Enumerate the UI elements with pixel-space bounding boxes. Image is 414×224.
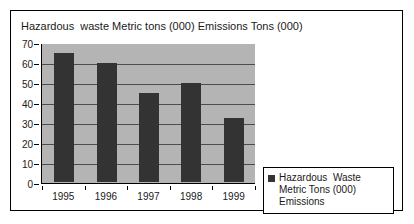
chart-title: Hazardous waste Metric tons (000) Emissi… <box>21 20 303 32</box>
y-axis-tick-label: 40 <box>22 99 33 110</box>
legend-color-swatch-icon <box>268 175 275 182</box>
y-axis-tick-mark <box>34 104 39 105</box>
bar <box>139 93 159 182</box>
legend-item-label: Hazardous Waste Metric Tons (000) Emissi… <box>279 172 389 208</box>
x-axis-tick-label: 1999 <box>214 186 254 202</box>
bar-series <box>43 44 255 182</box>
y-axis-tick-label: 60 <box>22 59 33 70</box>
plot-area <box>41 44 255 184</box>
y-axis-tick-mark <box>34 84 39 85</box>
y-axis-tick-label: 50 <box>22 79 33 90</box>
x-axis-tick-mark <box>212 186 213 190</box>
x-axis-tick-label: 1997 <box>128 186 168 202</box>
plot-area-wrapper <box>41 44 255 184</box>
y-axis-tick-mark <box>34 44 39 45</box>
y-axis-tick-label: 10 <box>22 159 33 170</box>
x-axis-tick-mark <box>170 186 171 190</box>
x-axis-tick-label: 1995 <box>43 186 83 202</box>
bar <box>97 63 117 182</box>
x-axis-tick-label: 1998 <box>171 186 211 202</box>
x-axis-tick-mark <box>42 186 43 190</box>
x-axis-tick-mark <box>85 186 86 190</box>
y-axis-tick-label: 30 <box>22 119 33 130</box>
y-axis-tick-mark <box>34 144 39 145</box>
y-axis-tick-mark <box>34 184 39 185</box>
bar <box>181 83 201 182</box>
x-axis-tick-label: 1996 <box>86 186 126 202</box>
bar <box>54 53 74 182</box>
y-axis-tick-mark <box>34 124 39 125</box>
x-axis-tick-mark <box>255 186 256 190</box>
bar <box>224 118 244 182</box>
y-axis-tick-label: 20 <box>22 139 33 150</box>
x-axis: 19951996199719981999 <box>42 186 255 206</box>
y-axis-tick-mark <box>34 164 39 165</box>
chart-frame: Hazardous waste Metric tons (000) Emissi… <box>10 10 403 211</box>
chart-legend: Hazardous Waste Metric Tons (000) Emissi… <box>263 167 394 214</box>
y-axis-tick-mark <box>34 64 39 65</box>
y-axis: 010203040506070 <box>11 38 39 190</box>
y-axis-tick-label: 0 <box>27 179 33 190</box>
legend-item: Hazardous Waste Metric Tons (000) Emissi… <box>268 172 389 208</box>
y-axis-tick-label: 70 <box>22 39 33 50</box>
x-axis-tick-mark <box>127 186 128 190</box>
